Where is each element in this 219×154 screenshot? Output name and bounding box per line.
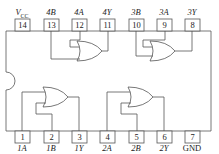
pin-2-number: 2 bbox=[44, 131, 59, 143]
pin-9-label: 3A bbox=[152, 8, 176, 17]
pin-12-label: 4A bbox=[67, 8, 91, 17]
pin-14-label: VCC bbox=[10, 8, 34, 21]
pin-8-number: 8 bbox=[185, 19, 200, 31]
pin-6-label: 2Y bbox=[152, 144, 176, 153]
pin-8-label: 3Y bbox=[180, 8, 204, 17]
pin-13-number: 13 bbox=[44, 19, 59, 31]
pin-5-number: 5 bbox=[129, 131, 144, 143]
pin-6-number: 6 bbox=[157, 131, 172, 143]
pin-1-label: 1A bbox=[10, 144, 34, 153]
pin-7-number: 7 bbox=[185, 131, 200, 143]
pin-4-number: 4 bbox=[100, 131, 115, 143]
pin-10-number: 10 bbox=[129, 19, 144, 31]
pin-7-label: GND bbox=[180, 144, 204, 153]
pin-1-number: 1 bbox=[15, 131, 30, 143]
pin-11-label: 4Y bbox=[95, 8, 119, 17]
pin-3-number: 3 bbox=[72, 131, 87, 143]
pin-5-label: 2B bbox=[124, 144, 148, 153]
chip-body bbox=[6, 31, 211, 131]
pin-11-number: 11 bbox=[100, 19, 115, 31]
pin-13-label: 4B bbox=[39, 8, 63, 17]
pin-14-number: 14 bbox=[15, 19, 30, 31]
pin-12-number: 12 bbox=[72, 19, 87, 31]
pin-10-label: 3B bbox=[124, 8, 148, 17]
pin-3-label: 1Y bbox=[67, 144, 91, 153]
pin-4-label: 2A bbox=[95, 144, 119, 153]
pin-9-number: 9 bbox=[157, 19, 172, 31]
pin-2-label: 1B bbox=[39, 144, 63, 153]
